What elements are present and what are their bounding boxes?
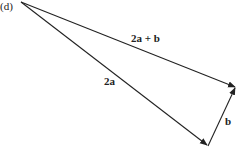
vector-2a-label: 2a xyxy=(104,76,115,87)
vector-sum-label: 2a + b xyxy=(131,33,160,44)
figure-part-label: (d) xyxy=(0,1,13,12)
vector-b-label: b xyxy=(225,116,231,127)
vector-2a-arrow xyxy=(21,2,207,145)
vector-diagram xyxy=(0,0,237,148)
vector-sum-arrow xyxy=(21,2,235,87)
